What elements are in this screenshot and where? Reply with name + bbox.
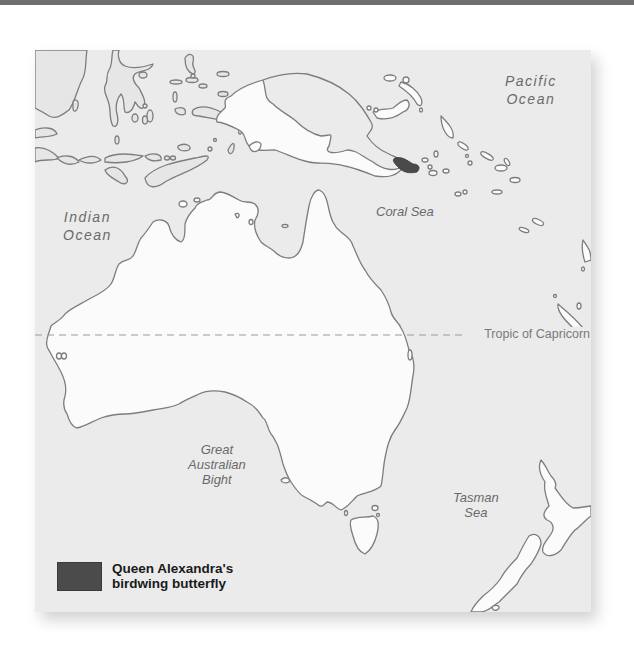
map-legend: Queen Alexandra's birdwing butterfly	[57, 561, 233, 591]
sulawesi-landmass	[104, 50, 153, 126]
tasmania-landmass	[350, 516, 378, 554]
nz-south-island	[471, 534, 541, 612]
coral-sea-label: Coral Sea	[376, 204, 434, 219]
java-landmass	[35, 128, 57, 138]
pacific-ocean-label: Pacific Ocean	[505, 72, 557, 108]
map-panel: Pacific Ocean Indian Ocean Coral Sea Gre…	[35, 50, 591, 612]
tasman-sea-label: Tasman Sea	[453, 490, 499, 520]
nz-north-island	[539, 460, 591, 556]
new-guinea-landmass	[217, 80, 403, 177]
legend-label: Queen Alexandra's birdwing butterfly	[112, 561, 233, 591]
tropic-of-capricorn-label: Tropic of Capricorn	[482, 327, 591, 341]
great-australian-bight-label: Great Australian Bight	[188, 442, 246, 487]
top-border-strip	[0, 0, 634, 5]
indian-ocean-label: Indian Ocean	[63, 208, 112, 244]
borneo-landmass	[35, 50, 87, 117]
legend-swatch-range	[57, 562, 102, 591]
